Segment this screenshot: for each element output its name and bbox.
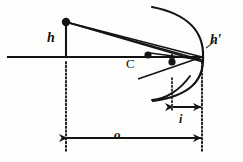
label-image-height: h′ bbox=[210, 33, 222, 47]
label-object-height: h bbox=[47, 31, 55, 45]
image-point-dot bbox=[168, 58, 175, 65]
label-image-distance: i bbox=[179, 113, 182, 125]
label-center-of-curvature: C bbox=[126, 57, 135, 70]
optics-diagram-svg bbox=[0, 0, 243, 162]
object-point-dot bbox=[62, 18, 70, 26]
ray-diagram-figure: h h′ C o i bbox=[0, 0, 243, 162]
label-object-distance: o bbox=[114, 128, 121, 141]
center-of-curvature-dot bbox=[144, 51, 151, 58]
